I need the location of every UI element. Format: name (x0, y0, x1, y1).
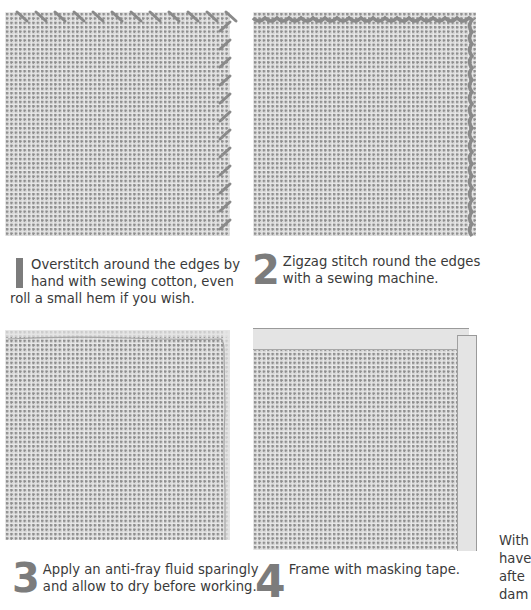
step-3-caption: 3 Apply an anti-fray fluid sparingly and… (32, 561, 262, 595)
overstitch-mark (74, 12, 84, 21)
overstitch-mark (93, 12, 103, 21)
overstitch-mark (220, 22, 230, 31)
overstitch-mark (220, 76, 230, 85)
side-text-line: dam (499, 586, 531, 604)
step-4-caption: 4 Frame with masking tape. (255, 561, 475, 602)
side-text-line: have (499, 550, 531, 568)
overstitched-canvas-illustration (5, 12, 230, 236)
step-1-text: Overstitch around the edges by hand with… (10, 257, 240, 306)
overstitch-mark (17, 12, 27, 21)
side-text-line: With (499, 532, 531, 550)
step-3-text: Apply an anti-fray fluid sparingly and a… (43, 562, 259, 594)
overstitch-mark (150, 12, 160, 21)
overstitch-mark (220, 166, 230, 175)
overstitch-mark (220, 58, 230, 67)
overstitch-mark (36, 12, 46, 21)
overstitch-mark (220, 220, 230, 229)
step-1-numeral: 1 (16, 258, 23, 288)
overstitch-mark (131, 12, 141, 21)
masking-tape-canvas-illustration (253, 330, 469, 550)
overstitch-mark (220, 202, 230, 211)
overstitch-mark (220, 40, 230, 49)
overstitch-mark (169, 12, 179, 21)
step-2-numeral: 2 (252, 254, 280, 286)
overstitch-mark (220, 148, 230, 157)
overstitch-mark (226, 12, 236, 21)
step-4-numeral: 4 (255, 562, 286, 602)
overstitch-icon (5, 12, 230, 236)
overstitch-mark (220, 94, 230, 103)
anti-fray-fluid-icon (5, 330, 230, 540)
masking-tape-top (253, 328, 469, 350)
step-2-caption: 2 Zigzag stitch round the edges with a s… (252, 253, 492, 287)
overstitch-mark (207, 12, 217, 21)
zigzag-stitch-icon (253, 12, 476, 236)
overstitch-mark (55, 12, 65, 21)
anti-fray-canvas-illustration (5, 330, 230, 540)
side-text-line: afte (499, 568, 531, 586)
overstitch-mark (220, 184, 230, 193)
overstitch-mark (220, 112, 230, 121)
zigzag-stitched-canvas-illustration (253, 12, 476, 236)
step-3-numeral: 3 (12, 562, 40, 594)
overstitch-mark (112, 12, 122, 21)
step-1-caption: 1 Overstitch around the edges by hand wi… (10, 256, 246, 307)
overstitch-mark (188, 12, 198, 21)
step-4-text: Frame with masking tape. (289, 562, 460, 577)
overstitch-mark (220, 130, 230, 139)
masking-tape-right (457, 335, 477, 551)
clipped-side-text: With have afte dam (499, 532, 531, 604)
step-2-text: Zigzag stitch round the edges with a sew… (283, 254, 480, 286)
